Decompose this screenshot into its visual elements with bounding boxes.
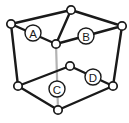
labels-layer: ABCD (25, 25, 101, 97)
vertex-right-back (118, 22, 126, 30)
vertex-bottom-right (109, 82, 117, 90)
label-badge-a-text: A (29, 28, 37, 40)
edge-center-front-to-bottom-front (56, 44, 58, 110)
vertex-bottom-left (14, 82, 22, 90)
cube-diagram-canvas: ABCD (0, 0, 129, 123)
label-badge-d: D (85, 69, 101, 85)
vertex-top-back (67, 6, 75, 14)
label-badge-a: A (25, 25, 41, 41)
edge-bottom-front-to-bottom-right (58, 86, 113, 110)
label-badge-d-text: D (89, 72, 97, 84)
label-badge-b: B (78, 28, 94, 44)
cube-diagram-figure: ABCD (0, 0, 129, 123)
vertex-bottom-front (54, 106, 62, 114)
edge-top-back-to-right-back (71, 10, 122, 26)
label-badge-b-text: B (82, 31, 90, 43)
edge-top-back-to-center-front (56, 10, 71, 44)
edge-left-back-to-bottom-left (11, 24, 18, 86)
edge-right-back-to-bottom-right (113, 26, 122, 86)
vertex-left-back (7, 20, 15, 28)
label-badge-c-text: C (53, 84, 61, 96)
label-badge-c: C (49, 81, 65, 97)
edge-top-back-to-left-back (11, 10, 71, 24)
vertex-mid-right (66, 62, 74, 70)
vertex-center-front (52, 40, 60, 48)
edges-layer (11, 10, 122, 110)
